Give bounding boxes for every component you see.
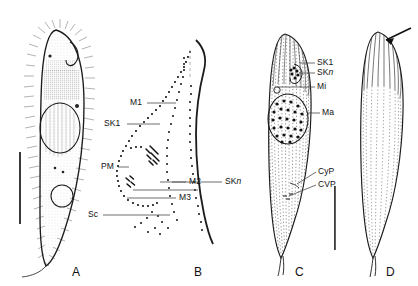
label-b-sk1: SK1 xyxy=(104,119,120,128)
panel-c-somatic-kineties xyxy=(269,35,310,256)
figure-canvas xyxy=(0,0,418,286)
panel-d-tail xyxy=(370,256,376,277)
panel-c-membranelles xyxy=(290,67,300,80)
panel-b-drawing xyxy=(103,40,222,244)
dorsal-arrow-icon xyxy=(386,28,411,45)
panel-d-drawing xyxy=(361,28,411,277)
label-c-mi: Mi xyxy=(317,82,326,91)
panel-letter-b: B xyxy=(194,265,202,279)
panel-c-tail xyxy=(278,256,284,276)
panel-a-granule xyxy=(54,167,57,170)
scale-bar-cd xyxy=(334,186,336,250)
panel-d-dorsal-kineties xyxy=(363,32,401,256)
panel-letter-c: C xyxy=(295,265,304,279)
label-c-cvp: CVP xyxy=(318,180,336,189)
panel-letter-d: D xyxy=(386,265,395,279)
caption-remnant-strip xyxy=(0,0,418,9)
panel-d-body-outline xyxy=(361,32,403,258)
panel-b-leader-lines xyxy=(103,103,222,215)
label-c-ma: Ma xyxy=(322,108,334,117)
panel-b-membranelles xyxy=(126,146,159,187)
label-c-skn: SKn xyxy=(317,68,333,77)
panel-a-granule xyxy=(48,54,51,57)
panel-letter-a: A xyxy=(72,265,80,279)
figure-plate: M1 SK1 PM M2 M3 Sc SKn SK1 SKn Mi Ma CyP… xyxy=(0,0,418,286)
panel-c-micronucleus xyxy=(274,87,280,93)
label-b-m1: M1 xyxy=(130,98,142,107)
label-b-m3: M3 xyxy=(179,193,191,202)
label-b-sc: Sc xyxy=(88,210,98,219)
label-b-pm: PM xyxy=(101,162,114,171)
label-b-skn: SKn xyxy=(225,177,241,186)
panel-a-granule xyxy=(75,104,79,108)
panel-a-caudal-cilium xyxy=(22,266,46,277)
panel-a-drawing xyxy=(19,19,95,277)
label-b-m2: M2 xyxy=(189,177,201,186)
panel-c-macronucleus-chromatin xyxy=(271,99,303,143)
panel-a-granule xyxy=(62,171,65,174)
label-c-sk1: SK1 xyxy=(317,58,333,67)
panel-c-leader-lines xyxy=(277,63,320,196)
scale-bar-a xyxy=(19,152,21,224)
label-c-cyp: CyP xyxy=(318,167,334,176)
